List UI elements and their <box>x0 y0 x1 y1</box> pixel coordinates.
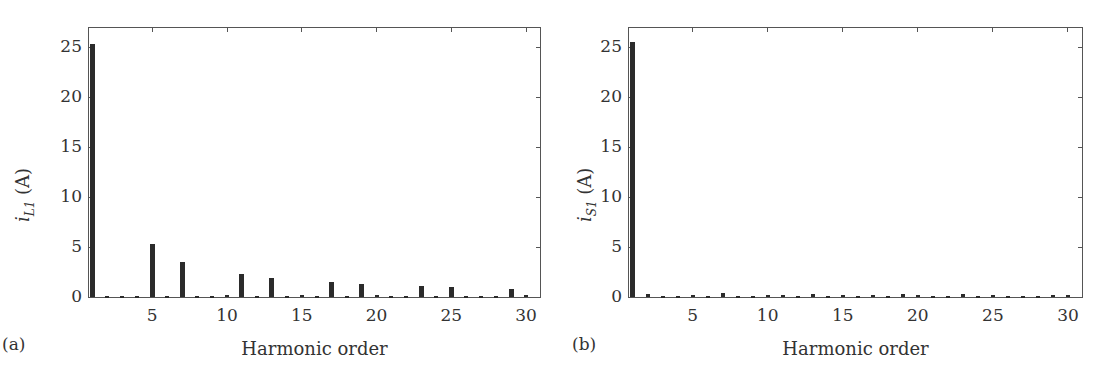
bar-harmonic-23 <box>961 294 965 298</box>
bar-harmonic-29 <box>1051 295 1055 297</box>
y-axis-title: iS1 (A) <box>574 168 599 222</box>
bar-harmonic-10 <box>766 295 770 297</box>
chart-panel-b: 051015202551015202530Harmonic orderiS1 (… <box>0 0 1117 377</box>
bar-harmonic-8 <box>736 296 740 298</box>
x-tick-label: 10 <box>748 307 788 324</box>
y-tick-label: 15 <box>592 138 622 155</box>
x-tick-top <box>767 27 768 32</box>
bar-harmonic-3 <box>661 296 665 298</box>
y-tick-right <box>1078 197 1083 198</box>
plot-frame <box>628 27 1083 298</box>
x-tick-top <box>842 27 843 32</box>
bar-harmonic-30 <box>1066 295 1070 298</box>
x-tick-label: 20 <box>898 307 938 324</box>
bar-harmonic-22 <box>946 296 950 298</box>
x-tick-label: 5 <box>673 307 713 324</box>
bar-harmonic-27 <box>1021 296 1025 298</box>
y-tick-label: 20 <box>592 88 622 105</box>
bar-harmonic-11 <box>781 295 785 297</box>
y-tick-label: 0 <box>592 288 622 305</box>
bar-harmonic-7 <box>721 293 725 298</box>
bar-harmonic-9 <box>751 296 755 298</box>
bar-harmonic-6 <box>706 296 710 298</box>
y-axis-symbol: i <box>574 216 595 222</box>
bar-harmonic-24 <box>976 296 980 298</box>
x-tick-top <box>917 27 918 32</box>
x-tick-label: 15 <box>823 307 863 324</box>
y-tick-right <box>1078 247 1083 248</box>
bar-harmonic-20 <box>916 295 920 297</box>
y-tick-label: 5 <box>592 238 622 255</box>
bar-harmonic-12 <box>796 296 800 298</box>
bar-harmonic-18 <box>886 296 890 298</box>
bar-harmonic-17 <box>871 295 875 297</box>
y-axis-subscript: S1 <box>585 200 599 216</box>
bar-harmonic-15 <box>841 295 845 297</box>
y-tick-right <box>1078 297 1083 298</box>
x-tick-top <box>1067 27 1068 32</box>
bar-harmonic-2 <box>646 294 650 298</box>
bar-harmonic-28 <box>1036 296 1040 298</box>
y-axis-unit: (A) <box>574 168 595 201</box>
x-tick-top <box>692 27 693 32</box>
bar-harmonic-13 <box>811 294 815 298</box>
bar-harmonic-16 <box>856 296 860 298</box>
x-tick-label: 25 <box>973 307 1013 324</box>
bar-harmonic-14 <box>826 296 830 298</box>
bar-harmonic-1 <box>630 42 635 297</box>
panel-label: (b) <box>572 334 596 354</box>
y-tick-right <box>1078 147 1083 148</box>
y-tick-right <box>1078 97 1083 98</box>
bar-harmonic-4 <box>676 296 680 298</box>
bar-harmonic-25 <box>991 295 995 298</box>
y-tick-right <box>1078 47 1083 48</box>
bar-harmonic-19 <box>901 294 905 297</box>
x-tick-label: 30 <box>1048 307 1088 324</box>
y-tick-label: 25 <box>592 38 622 55</box>
bar-harmonic-26 <box>1006 296 1010 298</box>
x-axis-title: Harmonic order <box>706 338 1006 359</box>
x-tick-top <box>992 27 993 32</box>
bar-harmonic-21 <box>931 296 935 298</box>
bar-harmonic-5 <box>691 295 695 297</box>
